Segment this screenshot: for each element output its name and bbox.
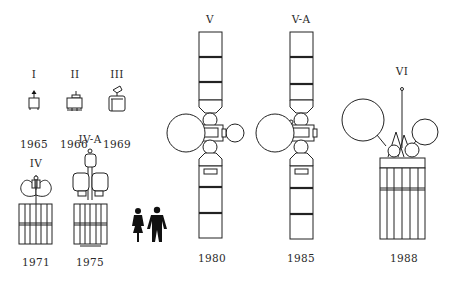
satellite-II-icon bbox=[67, 91, 82, 111]
human-scale-figures-icon bbox=[132, 207, 167, 242]
satellite-VI-icon bbox=[342, 88, 438, 240]
satellite-I-icon bbox=[29, 90, 39, 110]
satellite-evolution-diagram: I 1965 II 1966 III 1969 IV 1971 IV-A 197… bbox=[0, 0, 464, 283]
satellite-V-A-icon bbox=[256, 32, 317, 239]
satellite-V-icon bbox=[167, 32, 244, 238]
satellite-drawings bbox=[0, 0, 464, 283]
satellite-III-icon bbox=[109, 86, 125, 111]
satellite-IV-icon bbox=[19, 175, 52, 244]
satellite-IV-A-icon bbox=[73, 149, 108, 246]
